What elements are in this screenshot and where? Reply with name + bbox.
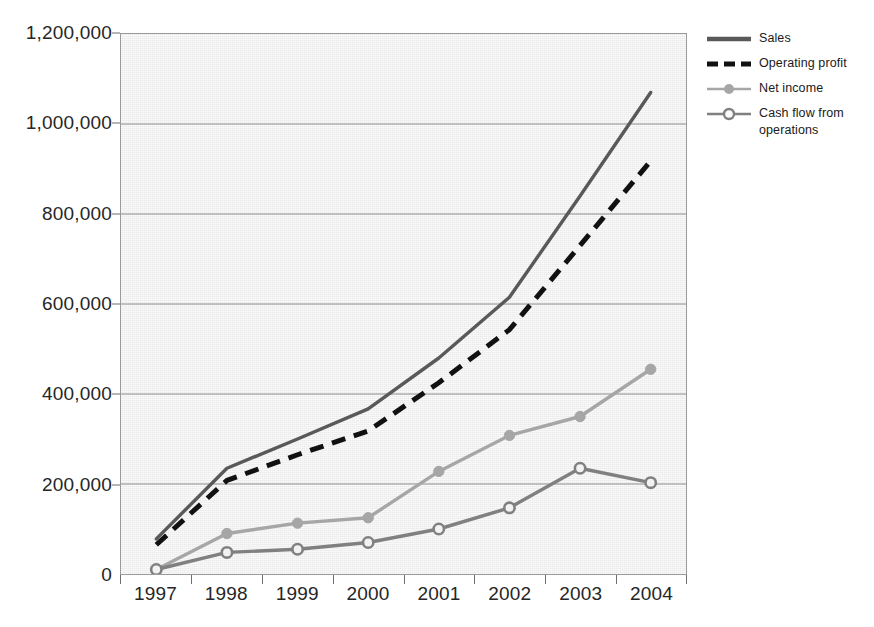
- legend-item[interactable]: Sales: [706, 30, 866, 49]
- data-point: [646, 477, 656, 487]
- legend-swatch-icon: [706, 55, 752, 73]
- data-point: [646, 364, 656, 374]
- data-point: [504, 503, 514, 513]
- y-axis-tick: [112, 394, 120, 395]
- y-axis-tick: [112, 33, 120, 34]
- legend-item[interactable]: Cash flow from operations: [706, 105, 866, 139]
- data-point: [363, 537, 373, 547]
- legend-label: Net income: [759, 80, 823, 97]
- y-axis-label: 0: [101, 564, 112, 586]
- data-point: [504, 430, 514, 440]
- data-point: [292, 518, 302, 528]
- data-point: [434, 524, 444, 534]
- y-axis-tick: [112, 304, 120, 305]
- chart-title: [120, 0, 690, 1]
- legend-item[interactable]: Operating profit: [706, 55, 866, 74]
- data-point: [222, 528, 232, 538]
- y-axis-tick: [112, 123, 120, 124]
- y-axis: 0200,000400,000600,000800,0001,000,0001,…: [0, 33, 112, 575]
- line-chart: 0200,000400,000600,000800,0001,000,0001,…: [0, 0, 874, 627]
- data-point: [575, 463, 585, 473]
- y-axis-label: 1,000,000: [26, 112, 112, 134]
- data-point: [151, 564, 161, 574]
- y-axis-label: 800,000: [42, 203, 112, 225]
- x-axis-label: 2004: [630, 583, 673, 605]
- data-point: [575, 411, 585, 421]
- data-point: [292, 544, 302, 554]
- legend-swatch-icon: [706, 105, 752, 123]
- x-axis: 19971998199920002001200220032004: [120, 583, 687, 615]
- legend-item[interactable]: Net income: [706, 80, 866, 99]
- data-point: [434, 466, 444, 476]
- y-axis-label: 200,000: [42, 474, 112, 496]
- y-axis-tick: [112, 484, 120, 485]
- x-axis-label: 2001: [417, 583, 460, 605]
- y-axis-label: 1,200,000: [26, 22, 112, 44]
- y-axis-label: 600,000: [42, 293, 112, 315]
- x-axis-label: 1997: [134, 583, 177, 605]
- plot-svg: [121, 34, 686, 574]
- x-axis-label: 2002: [488, 583, 531, 605]
- y-axis-tick: [112, 213, 120, 214]
- x-axis-label: 1998: [205, 583, 248, 605]
- x-axis-label: 2000: [347, 583, 390, 605]
- legend-label: Cash flow from operations: [759, 105, 866, 139]
- data-point: [222, 547, 232, 557]
- legend-label: Sales: [759, 30, 791, 47]
- plot-area: [120, 33, 687, 575]
- legend-swatch-icon: [706, 80, 752, 98]
- legend-label: Operating profit: [759, 55, 847, 72]
- legend-swatch-icon: [706, 30, 752, 48]
- series-operating-profit: [156, 161, 650, 545]
- chart-legend: SalesOperating profitNet incomeCash flow…: [706, 30, 866, 145]
- y-axis-label: 400,000: [42, 383, 112, 405]
- series-line: [156, 161, 650, 545]
- x-axis-label: 2003: [559, 583, 602, 605]
- data-point: [363, 513, 373, 523]
- x-axis-label: 1999: [276, 583, 319, 605]
